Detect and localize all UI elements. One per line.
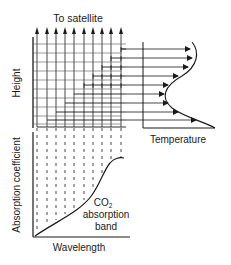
height-axis-label: Height	[11, 68, 22, 97]
height-grid	[33, 27, 126, 128]
temperature-profile	[121, 42, 215, 128]
temperature-axis-label: Temperature	[150, 134, 207, 145]
svg-text:CO2: CO2	[94, 197, 113, 209]
svg-text:absorption: absorption	[83, 209, 130, 220]
diagram-canvas: To satellite	[0, 0, 231, 265]
emission-arrow-icons	[121, 49, 196, 120]
to-satellite-label: To satellite	[53, 12, 103, 24]
absorption-axis-label: Absorption coefficient	[11, 137, 22, 233]
svg-text:band: band	[95, 221, 117, 232]
wavelength-axis-label: Wavelength	[53, 242, 105, 253]
co2-band-label: CO2 absorption band	[83, 197, 130, 232]
